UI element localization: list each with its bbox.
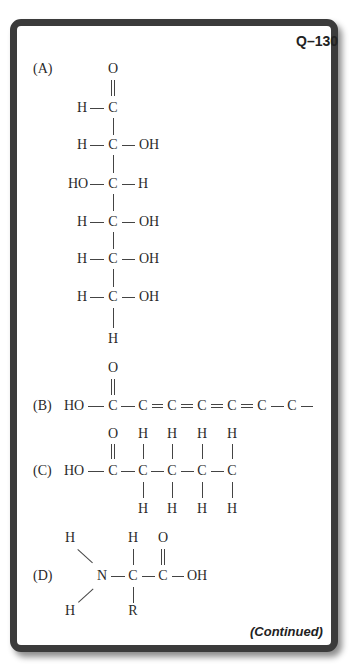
atom: H <box>138 177 148 191</box>
bond <box>122 222 135 223</box>
bond <box>113 269 114 287</box>
atom: C <box>257 399 266 413</box>
atom: C <box>108 399 117 413</box>
bond <box>113 155 114 173</box>
bond <box>133 587 134 603</box>
bond <box>122 259 135 260</box>
bond <box>90 222 104 223</box>
atom: H <box>167 502 177 516</box>
bond <box>172 444 173 459</box>
atom: O <box>108 62 118 76</box>
bond <box>122 297 135 298</box>
atom: O <box>108 427 118 441</box>
double-bond <box>152 404 163 408</box>
atom: C <box>227 399 236 413</box>
atom: OH <box>139 138 159 152</box>
atom: C <box>167 464 176 478</box>
atom: HO <box>64 464 84 478</box>
bond <box>172 576 184 577</box>
option-label: (D) <box>33 569 52 583</box>
atom: H <box>65 531 75 545</box>
bond <box>121 471 135 472</box>
bond <box>301 406 313 407</box>
atom: H <box>167 427 177 441</box>
bond <box>113 194 114 211</box>
atom: HO <box>68 177 88 191</box>
atom: C <box>167 399 176 413</box>
atom: C <box>138 464 147 478</box>
bond <box>90 184 104 185</box>
double-bond <box>111 444 115 459</box>
bond <box>90 259 104 260</box>
bond <box>90 145 104 146</box>
atom: H <box>197 502 207 516</box>
atom: C <box>108 101 117 115</box>
atom: N <box>97 569 107 583</box>
bond <box>133 549 134 565</box>
atom: C <box>227 464 236 478</box>
atom: O <box>158 531 168 545</box>
continued-label: (Continued) <box>250 624 323 639</box>
double-bond <box>241 404 253 408</box>
atom: C <box>197 464 206 478</box>
atom: H <box>138 427 148 441</box>
question-id: Q–130 <box>296 33 338 49</box>
bond <box>113 308 114 328</box>
atom: H <box>77 138 87 152</box>
bond <box>90 108 104 109</box>
card-content: Q–130 (A) O H C H C OH HO C H H C OH H C… <box>0 0 357 664</box>
atom: C <box>108 215 117 229</box>
atom: OH <box>139 290 159 304</box>
bond <box>111 576 125 577</box>
atom: R <box>128 604 137 618</box>
bond <box>232 444 233 459</box>
bond <box>78 589 94 603</box>
atom: C <box>108 138 117 152</box>
bond <box>90 297 104 298</box>
atom: H <box>138 502 148 516</box>
atom: O <box>108 361 118 375</box>
atom: H <box>108 332 118 346</box>
atom: C <box>287 399 296 413</box>
bond <box>122 145 135 146</box>
atom: H <box>77 215 87 229</box>
bond <box>181 471 194 472</box>
atom: OH <box>187 569 207 583</box>
bond <box>77 549 93 563</box>
double-bond <box>181 404 193 408</box>
atom: H <box>77 290 87 304</box>
atom: C <box>108 177 117 191</box>
atom: C <box>197 399 206 413</box>
double-bond <box>111 80 115 96</box>
option-label: (C) <box>33 464 52 478</box>
double-bond <box>211 404 223 408</box>
bond <box>271 406 284 407</box>
double-bond <box>111 379 115 395</box>
atom: C <box>108 252 117 266</box>
atom: H <box>65 604 75 618</box>
option-label: (B) <box>33 399 52 413</box>
atom: C <box>108 464 117 478</box>
bond <box>211 471 224 472</box>
bond <box>88 406 104 407</box>
bond <box>143 444 144 459</box>
bond <box>88 471 104 472</box>
atom: OH <box>139 215 159 229</box>
bond <box>121 406 135 407</box>
bond <box>172 482 173 498</box>
bond <box>143 482 144 498</box>
bond <box>202 444 203 459</box>
atom: C <box>158 569 167 583</box>
atom: H <box>197 427 207 441</box>
double-bond <box>161 549 165 565</box>
bond <box>113 232 114 249</box>
atom: C <box>138 399 147 413</box>
atom: C <box>128 569 137 583</box>
atom: H <box>227 427 237 441</box>
bond <box>202 482 203 498</box>
atom: H <box>227 502 237 516</box>
bond <box>122 184 135 185</box>
atom: H <box>128 531 138 545</box>
bond <box>151 471 164 472</box>
atom: HO <box>64 399 84 413</box>
